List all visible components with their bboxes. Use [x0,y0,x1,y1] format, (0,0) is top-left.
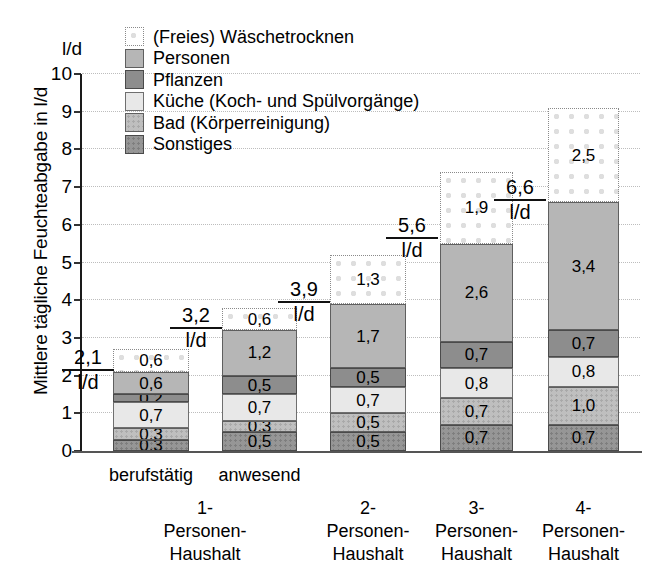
bar-segment-value: 0,5 [356,369,380,386]
bar-stack[interactable]: 0,71,00,80,73,42,5 [548,0,619,460]
bar-total-value: 5,6 [386,215,438,237]
bar-segment-personen[interactable]: 0,6 [113,372,189,395]
bar-segment-pflanzen[interactable]: 0,5 [330,368,406,387]
bar-segment-bad[interactable]: 1,0 [548,387,619,425]
bar-segment-value: 0,7 [248,399,272,416]
bar-segment-pflanzen[interactable]: 0,7 [548,330,619,356]
bar-segment-kueche[interactable]: 0,7 [222,394,297,420]
bar-total-unit: l/d [278,301,330,325]
bar-segment-pflanzen[interactable]: 0,2 [113,394,189,402]
x-category-sublabel: anwesend [200,466,319,484]
bar-segment-sonstiges[interactable]: 0,7 [440,425,513,451]
bar-segment-bad[interactable]: 0,3 [113,428,189,439]
bar-segment-value: 0,5 [356,414,380,431]
bar-segment-kueche[interactable]: 0,8 [440,368,513,398]
y-tick-label: 5 [38,253,72,272]
y-tick-label: 1 [38,403,72,422]
y-tick-label: 9 [38,102,72,121]
bar-segment-pflanzen[interactable]: 0,5 [222,376,297,395]
bar-segment-value: 1,2 [248,344,272,361]
bar-segment-personen[interactable]: 3,4 [548,202,619,330]
bar-segment-sonstiges[interactable]: 0,7 [548,425,619,451]
bar-segment-bad[interactable]: 0,7 [440,398,513,424]
bar-total-label: 6,6l/d [494,177,546,223]
bar-segment-value: 0,5 [248,433,272,450]
bar-segment-value: 0,7 [572,335,596,352]
bar-total-unit: l/d [62,369,114,393]
x-category-line: Personen- [526,520,641,543]
bar-segment-value: 0,7 [356,392,380,409]
bar-total-label: 3,2l/d [170,305,222,351]
bar-segment-value: 1,3 [356,271,380,288]
x-category-label: 2-Personen-Haushalt [308,497,428,566]
bar-segment-waesche[interactable]: 1,3 [330,255,406,304]
y-axis-title: Mittlere tägliche Feuchteabgabe in l/d [30,31,54,451]
bar-segment-kueche[interactable]: 0,7 [330,387,406,413]
bar-segment-value: 0,5 [356,433,380,450]
y-tick-label: 8 [38,139,72,158]
x-category-line: 2- [308,497,428,520]
x-category-line: Haushalt [308,543,428,566]
bar-total-value: 2,1 [62,347,114,369]
x-category-line: Personen- [308,520,428,543]
bar-segment-value: 0,5 [248,377,272,394]
bar-total-value: 3,2 [170,305,222,327]
x-category-line: Haushalt [526,543,641,566]
bar-segment-value: 1,0 [572,397,596,414]
x-category-label: 4-Personen-Haushalt [526,497,641,566]
bar-segment-kueche[interactable]: 0,7 [113,402,189,428]
bar-total-unit: l/d [170,327,222,351]
bar-total-unit: l/d [494,199,546,223]
bar-segment-value: 3,4 [572,258,596,275]
bar-segment-value: 0,8 [465,375,489,392]
y-tick-label: 7 [38,177,72,196]
bar-segment-sonstiges[interactable]: 0,5 [222,432,297,451]
bar-segment-value: 0,3 [248,421,272,432]
bar-segment-value: 0,7 [139,407,163,424]
bar-segment-value: 0,6 [139,352,163,369]
x-category-line: 3- [418,497,535,520]
x-category-label: 3-Personen-Haushalt [418,497,535,566]
bar-segment-value: 0,7 [572,429,596,446]
x-category-label: 1-Personen-Haushalt [135,497,275,566]
bar-segment-waesche[interactable]: 2,5 [548,108,619,202]
bar-segment-bad[interactable]: 0,3 [222,421,297,432]
bar-total-value: 6,6 [494,177,546,199]
bar-segment-sonstiges[interactable]: 0,3 [113,440,189,451]
bar-segment-value: 1,9 [465,199,489,216]
y-tick-label: 3 [38,328,72,347]
y-tick-label: 10 [38,64,72,83]
bar-segment-value: 0,7 [465,403,489,420]
bar-segment-value: 2,6 [465,284,489,301]
bar-segment-value: 0,6 [248,311,272,328]
x-category-line: Haushalt [135,543,275,566]
x-category-line: Haushalt [418,543,535,566]
bar-segment-value: 1,7 [356,328,380,345]
x-category-line: 4- [526,497,641,520]
bar-segment-value: 0,8 [572,363,596,380]
bar-segment-value: 0,7 [465,429,489,446]
bar-segment-waesche[interactable]: 0,6 [113,349,189,372]
bar-segment-personen[interactable]: 1,2 [222,330,297,375]
y-axis-line [80,74,82,452]
x-category-line: Personen- [135,520,275,543]
bar-stack[interactable]: 0,50,30,70,51,20,6 [222,0,297,460]
bar-segment-kueche[interactable]: 0,8 [548,357,619,387]
y-tick-label: 4 [38,290,72,309]
bar-segment-personen[interactable]: 1,7 [330,304,406,368]
bar-stack[interactable]: 0,70,70,80,72,61,9 [440,0,513,460]
bar-total-label: 5,6l/d [386,215,438,261]
bar-total-value: 3,9 [278,279,330,301]
bar-stack[interactable]: 0,30,30,70,20,60,6 [113,0,189,460]
bar-total-label: 3,9l/d [278,279,330,325]
bar-segment-sonstiges[interactable]: 0,5 [330,432,406,451]
y-axis-unit-label: l/d [62,38,82,60]
bar-segment-bad[interactable]: 0,5 [330,413,406,432]
bar-segment-value: 0,3 [139,428,163,439]
y-tick-label: 6 [38,215,72,234]
bar-segment-pflanzen[interactable]: 0,7 [440,342,513,368]
bar-segment-personen[interactable]: 2,6 [440,244,513,342]
x-category-line: 1- [135,497,275,520]
bar-segment-value: 0,2 [139,394,163,402]
chart-container: Mittlere tägliche Feuchteabgabe in l/d l… [0,0,662,582]
